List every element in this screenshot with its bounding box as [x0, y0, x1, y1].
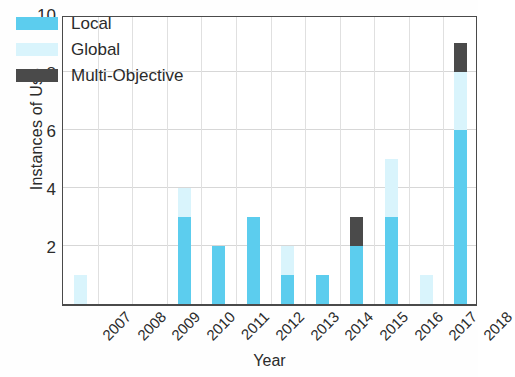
bar-segment-local — [247, 217, 260, 304]
x-tick-2009: 2009 — [168, 308, 204, 344]
legend-swatch-icon — [16, 17, 58, 30]
x-tick-2013: 2013 — [307, 308, 343, 344]
legend-swatch-icon — [16, 43, 58, 56]
chart-legend: LocalGlobalMulti-Objective — [16, 12, 183, 90]
legend-swatch-icon — [16, 69, 58, 82]
legend-label: Multi-Objective — [71, 67, 183, 84]
bar-segment-local — [385, 217, 398, 304]
legend-item-local: Local — [16, 12, 183, 34]
gridline-vertical — [271, 17, 272, 304]
x-tick-2008: 2008 — [134, 308, 170, 344]
bar-segment-multi-objective — [454, 43, 467, 72]
bar-segment-multi-objective — [350, 217, 363, 246]
legend-label: Global — [71, 41, 120, 58]
bar-2017 — [420, 275, 433, 304]
bar-segment-global — [385, 159, 398, 217]
bar-2016 — [385, 159, 398, 304]
bar-segment-local — [316, 275, 329, 304]
gridline-vertical — [201, 17, 202, 304]
bar-2018 — [454, 43, 467, 304]
bar-2014 — [316, 275, 329, 304]
x-tick-2017: 2017 — [445, 308, 481, 344]
legend-item-multi-objective: Multi-Objective — [16, 64, 183, 86]
bar-2010 — [178, 188, 191, 304]
bar-segment-global — [178, 188, 191, 217]
bar-2007 — [74, 275, 87, 304]
gridline-vertical — [305, 17, 306, 304]
legend-item-global: Global — [16, 38, 183, 60]
gridline-horizontal — [63, 129, 476, 130]
gridline-vertical — [340, 17, 341, 304]
bar-2012 — [247, 217, 260, 304]
gridline-vertical — [409, 17, 410, 304]
bar-2015 — [350, 217, 363, 304]
bar-segment-local — [350, 246, 363, 304]
x-tick-2011: 2011 — [237, 308, 272, 343]
x-tick-2015: 2015 — [376, 308, 412, 344]
bar-segment-local — [281, 275, 294, 304]
x-tick-2014: 2014 — [341, 308, 377, 344]
bar-2013 — [281, 246, 294, 304]
x-axis-title: Year — [62, 352, 477, 370]
bar-2011 — [212, 246, 225, 304]
x-axis-tick-labels: 2007200820092010201120122013201420152016… — [62, 308, 477, 353]
bar-segment-local — [454, 130, 467, 304]
x-tick-2007: 2007 — [99, 308, 135, 344]
x-tick-2018: 2018 — [479, 308, 515, 344]
y-tick-4: 4 — [28, 180, 56, 200]
legend-label: Local — [71, 15, 112, 32]
bar-segment-global — [281, 246, 294, 275]
gridline-vertical — [443, 17, 444, 304]
x-tick-2016: 2016 — [410, 308, 446, 344]
gridline-horizontal — [63, 245, 476, 246]
bar-segment-local — [212, 246, 225, 304]
gridline-vertical — [236, 17, 237, 304]
x-tick-2010: 2010 — [203, 308, 239, 344]
bar-segment-global — [420, 275, 433, 304]
bar-segment-global — [454, 72, 467, 130]
gridline-horizontal — [63, 187, 476, 188]
bar-segment-local — [178, 217, 191, 304]
bar-segment-global — [74, 275, 87, 304]
x-tick-2012: 2012 — [272, 308, 308, 344]
gridline-vertical — [374, 17, 375, 304]
y-tick-2: 2 — [28, 238, 56, 258]
y-tick-6: 6 — [28, 122, 56, 142]
